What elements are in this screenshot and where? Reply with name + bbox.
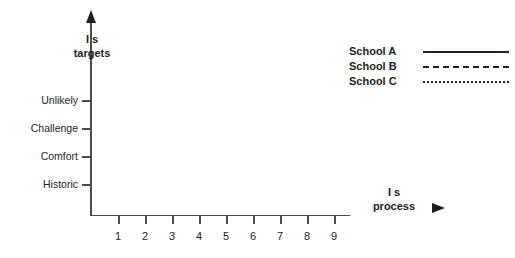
y-tick-mark [82, 100, 90, 102]
x-axis-line [90, 215, 350, 217]
x-tick-label-6: 6 [243, 230, 263, 243]
legend-swatch-solid-line-icon [417, 46, 509, 58]
x-tick-label-2: 2 [135, 230, 155, 243]
legend-label-school-c: School C [349, 74, 417, 89]
legend-label-school-a: School A [349, 44, 417, 59]
legend-item-school-a[interactable]: School A [349, 44, 509, 59]
y-tick-label-historic: Historic [6, 178, 78, 190]
x-tick-mark [172, 216, 174, 224]
x-tick-label-5: 5 [216, 230, 236, 243]
chart-canvas: I s targets I s process Unlikely Challen… [0, 0, 515, 258]
legend-swatch-dashed-line-icon [417, 61, 509, 73]
x-tick-mark [307, 216, 309, 224]
x-tick-mark [145, 216, 147, 224]
legend-swatch-dotted-line-icon [417, 76, 509, 88]
x-tick-mark [334, 216, 336, 224]
x-tick-label-9: 9 [324, 230, 344, 243]
y-tick-mark [82, 156, 90, 158]
y-tick-label-challenge: Challenge [6, 122, 78, 134]
x-axis-title: I s process [360, 185, 428, 213]
x-tick-mark [253, 216, 255, 224]
legend-item-school-b[interactable]: School B [349, 59, 509, 74]
x-tick-label-8: 8 [297, 230, 317, 243]
y-axis-title: I s targets [44, 32, 140, 60]
x-axis-title-line1: I s [360, 185, 428, 199]
x-tick-label-1: 1 [108, 230, 128, 243]
x-tick-mark [280, 216, 282, 224]
y-tick-mark [82, 128, 90, 130]
legend: School A School B School C [349, 44, 509, 89]
x-tick-mark [199, 216, 201, 224]
legend-item-school-c[interactable]: School C [349, 74, 509, 89]
y-tick-label-unlikely: Unlikely [6, 94, 78, 106]
y-tick-mark [82, 184, 90, 186]
y-axis-title-line2: targets [44, 46, 140, 60]
x-tick-label-7: 7 [270, 230, 290, 243]
legend-label-school-b: School B [349, 59, 417, 74]
y-axis-title-line1: I s [44, 32, 140, 46]
x-tick-mark [226, 216, 228, 224]
x-axis-arrow-icon [432, 203, 445, 213]
x-tick-label-3: 3 [162, 230, 182, 243]
x-tick-label-4: 4 [189, 230, 209, 243]
x-axis-title-line2: process [360, 199, 428, 213]
x-tick-mark [118, 216, 120, 224]
y-tick-label-comfort: Comfort [6, 150, 78, 162]
